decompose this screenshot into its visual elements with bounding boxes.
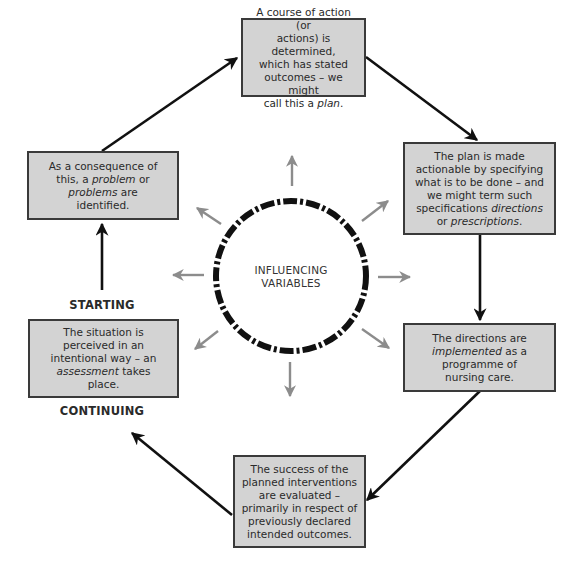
box-text-line: problems are: [49, 186, 158, 199]
continuing-label: CONTINUING: [42, 404, 162, 418]
box-text-line: we might term such: [415, 189, 544, 202]
box-text: The success of theplanned interventionsa…: [242, 463, 358, 541]
box-directions: The plan is madeactionable by specifying…: [403, 142, 556, 235]
box-text-line: what is to be done – and: [415, 176, 544, 189]
box-text-line: previously declared: [242, 515, 358, 528]
center-label-line1: INFLUENCING: [231, 264, 351, 277]
box-text-line: or prescriptions.: [415, 215, 544, 228]
box-text-line: nursing care.: [432, 371, 527, 384]
box-text-line: intended outcomes.: [242, 528, 358, 541]
box-text-line: programme of: [432, 358, 527, 371]
arrow-problem-to-plan: [102, 58, 237, 151]
nursing-process-diagram: INFLUENCING VARIABLES A course of action…: [0, 0, 579, 564]
box-text: A course of action (oractions) is determ…: [249, 6, 358, 110]
arrow-implemented-to-evaluated: [367, 391, 480, 500]
box-text-line: primarily in respect of: [242, 502, 358, 515]
box-text-line: planned interventions: [242, 476, 358, 489]
box-text-line: As a consequence of: [49, 160, 158, 173]
box-text: As a consequence ofthis, a problem orpro…: [49, 160, 158, 212]
box-text-line: The situation is: [51, 326, 157, 339]
influence-arrow-sw: [195, 331, 218, 349]
influence-arrow-se: [362, 329, 389, 348]
box-plan: A course of action (oractions) is determ…: [241, 18, 366, 97]
box-text-line: place.: [51, 378, 157, 391]
starting-label: STARTING: [52, 298, 152, 312]
influence-arrow-ne: [362, 201, 388, 221]
arrow-plan-to-directions: [366, 57, 477, 140]
box-evaluated: The success of theplanned interventionsa…: [233, 455, 366, 548]
box-text-line: outcomes – we might: [249, 71, 358, 97]
box-text: The situation isperceived in anintention…: [51, 326, 157, 391]
influence-arrow-nw: [197, 208, 221, 224]
box-text-line: identified.: [49, 199, 158, 212]
box-implemented: The directions areimplemented as aprogra…: [403, 323, 556, 392]
box-assessment: The situation isperceived in anintention…: [28, 319, 179, 398]
box-text-line: The plan is made: [415, 150, 544, 163]
box-text-line: call this a plan.: [249, 97, 358, 110]
box-text-line: specifications directions: [415, 202, 544, 215]
box-text-line: implemented as a: [432, 345, 527, 358]
box-text-line: A course of action (or: [249, 6, 358, 32]
box-text-line: which has stated: [249, 58, 358, 71]
box-text-line: this, a problem or: [49, 173, 158, 186]
box-text-line: The directions are: [432, 332, 527, 345]
arrow-evaluated-to-continuing: [132, 433, 232, 515]
box-text-line: perceived in an: [51, 339, 157, 352]
box-text-line: actions) is determined,: [249, 32, 358, 58]
box-text-line: are evaluated –: [242, 489, 358, 502]
box-text-line: actionable by specifying: [415, 163, 544, 176]
center-label-line2: VARIABLES: [231, 277, 351, 290]
box-text: The plan is madeactionable by specifying…: [415, 150, 544, 228]
box-text: The directions areimplemented as aprogra…: [432, 332, 527, 384]
box-text-line: The success of the: [242, 463, 358, 476]
influencing-variables-label: INFLUENCING VARIABLES: [231, 264, 351, 290]
box-problem: As a consequence ofthis, a problem orpro…: [27, 151, 179, 220]
box-text-line: assessment takes: [51, 365, 157, 378]
box-text-line: intentional way – an: [51, 352, 157, 365]
